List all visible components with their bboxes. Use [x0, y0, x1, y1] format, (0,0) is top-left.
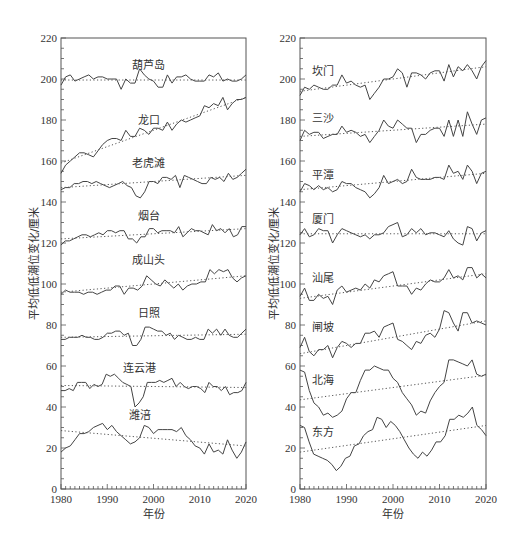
y-tick-label: 220 [280, 32, 297, 44]
series-label: 连云港 [123, 362, 156, 375]
series-label: 闸坡 [312, 321, 334, 334]
x-tick-label: 2010 [189, 493, 212, 505]
x-tick-label: 1980 [50, 493, 73, 505]
y-tick-label: 140 [280, 196, 297, 208]
series-line [61, 225, 246, 246]
series-label: 厦门 [312, 212, 334, 226]
y-tick-label: 40 [46, 401, 58, 413]
y-tick-label: 160 [280, 155, 297, 167]
y-axis-title: 平均低低潮位变化/厘米 [27, 207, 41, 321]
series-line [61, 169, 246, 198]
x-tick-label: 2020 [235, 493, 258, 505]
series-label: 三沙 [312, 112, 334, 125]
series-line [300, 311, 486, 358]
y-tick-label: 20 [46, 442, 58, 454]
y-tick-label: 80 [285, 319, 297, 331]
x-tick-label: 1990 [96, 493, 119, 505]
series-label: 潍涪 [129, 408, 151, 422]
trend-line [61, 276, 246, 292]
x-tick-label: 2000 [143, 493, 166, 505]
series-label: 坎门 [312, 64, 334, 78]
y-tick-label: 120 [41, 237, 58, 249]
series-line [300, 360, 486, 417]
series-label: 葫芦岛 [132, 58, 165, 72]
x-tick-label: 1990 [336, 493, 359, 505]
right-panel: 0204060801001201401601802002201980199020… [267, 32, 498, 521]
plot-frame [300, 38, 486, 489]
series-label: 北海 [312, 373, 334, 387]
series-label: 龙口 [138, 114, 160, 127]
x-tick-label: 2020 [475, 493, 498, 505]
y-tick-label: 60 [46, 360, 58, 372]
y-tick-label: 120 [280, 237, 297, 249]
y-tick-label: 140 [41, 196, 58, 208]
series-label: 成山头 [132, 254, 165, 267]
left-panel: 0204060801001201401601802002201980199020… [27, 32, 258, 521]
y-tick-label: 200 [41, 73, 58, 85]
y-tick-label: 60 [285, 360, 297, 372]
series-line [61, 270, 246, 295]
series-line [61, 423, 246, 458]
series-label: 汕尾 [312, 272, 334, 285]
y-tick-label: 180 [280, 114, 297, 126]
x-tick-label: 2000 [382, 493, 405, 505]
x-tick-label: 2010 [429, 493, 452, 505]
series-line [61, 327, 246, 345]
y-tick-label: 40 [285, 401, 297, 413]
trend-line [61, 97, 246, 163]
y-tick-label: 200 [280, 73, 297, 85]
y-tick-label: 160 [41, 155, 58, 167]
y-tick-label: 100 [41, 278, 58, 290]
series-label: 日照 [138, 307, 160, 320]
x-tick-label: 1980 [289, 493, 312, 505]
x-axis-title: 年份 [382, 507, 404, 521]
tide-level-chart: 0204060801001201401601802002201980199020… [0, 0, 515, 548]
x-axis-title: 年份 [143, 507, 165, 521]
y-axis-title: 平均低低潮位变化/厘米 [267, 207, 281, 321]
y-tick-label: 100 [280, 278, 297, 290]
series-line [61, 374, 246, 407]
series-label: 东方 [312, 425, 334, 439]
y-tick-label: 180 [41, 114, 58, 126]
series-label: 老虎滩 [132, 156, 165, 170]
series-line [300, 223, 486, 246]
series-label: 烟台 [138, 209, 160, 223]
y-tick-label: 220 [41, 32, 58, 44]
series-line [61, 69, 246, 90]
y-tick-label: 80 [46, 319, 58, 331]
series-label: 平潭 [312, 169, 334, 182]
trend-line [300, 124, 486, 136]
y-tick-label: 20 [285, 442, 297, 454]
